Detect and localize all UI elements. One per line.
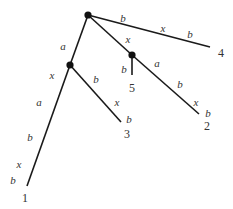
edge-label: x	[125, 33, 131, 45]
edge-label: a	[36, 96, 42, 108]
tree-diagram: bxbxbabxbabxbxabxb12345	[0, 0, 233, 209]
leaf-label-5: 5	[129, 81, 135, 95]
leaf-label-1: 1	[22, 191, 28, 205]
edge-label: b	[177, 78, 183, 90]
internal-node-root	[84, 11, 91, 18]
edge-label: b	[205, 107, 211, 119]
leaf-label-4: 4	[218, 46, 224, 60]
edge-root-n_left	[70, 15, 88, 65]
edge-n_left-1	[27, 65, 70, 186]
edge-label: b	[120, 12, 126, 24]
edge-label: b	[121, 63, 127, 75]
edge-label: b	[187, 28, 193, 40]
edge-n_right-2	[132, 55, 199, 114]
edge-label: x	[49, 69, 55, 81]
internal-node-n_left	[66, 61, 73, 68]
edge-label: x	[193, 96, 199, 108]
leaf-label-2: 2	[204, 119, 210, 133]
edge-label: a	[60, 40, 66, 52]
edge-label: b	[126, 113, 132, 125]
edge-label: b	[10, 174, 16, 186]
internal-node-n_right	[128, 51, 135, 58]
edge-label: x	[16, 158, 22, 170]
edge-label: b	[93, 73, 99, 85]
edge-label: b	[27, 131, 33, 143]
edge-label: x	[114, 96, 120, 108]
edge-label: x	[160, 22, 166, 34]
edge-label: a	[154, 57, 160, 69]
leaf-label-3: 3	[124, 127, 130, 141]
